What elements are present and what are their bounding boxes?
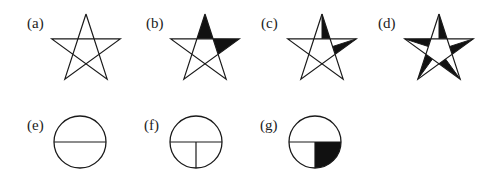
star-d [405, 14, 473, 79]
label-c: (c) [261, 16, 278, 31]
pentagram-outline [52, 14, 120, 79]
star-b [171, 14, 239, 79]
label-b: (b) [146, 16, 164, 31]
circle-f [170, 116, 222, 168]
figure-canvas [0, 0, 496, 185]
shaded-region [197, 14, 213, 39]
circle-g [289, 116, 341, 168]
label-f: (f) [144, 118, 159, 133]
star-a [52, 14, 120, 79]
label-a: (a) [27, 16, 44, 31]
circle-e [54, 116, 106, 168]
label-d: (d) [378, 16, 396, 31]
label-e: (e) [27, 118, 44, 133]
label-g: (g) [260, 118, 278, 133]
star-c [288, 14, 356, 79]
